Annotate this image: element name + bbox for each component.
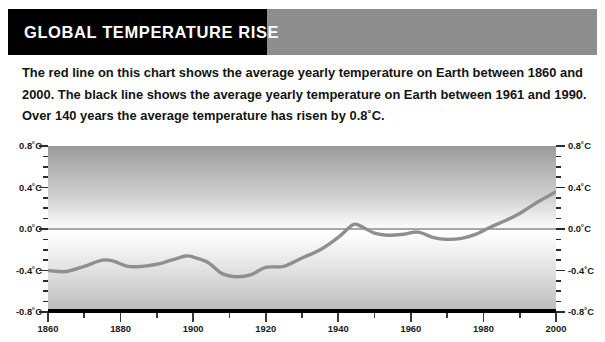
x-tick-minor [156, 313, 158, 318]
x-tick-major [47, 313, 49, 322]
x-tick-minor [229, 313, 231, 318]
page-title: GLOBAL TEMPERATURE RISE [24, 23, 279, 42]
y-axis-label-right: 0.4˚C [568, 183, 591, 193]
x-tick-major [265, 313, 267, 322]
y-axis-labels: 0.8˚C0.8˚C0.4˚C0.4˚C0.0˚C0.0˚C-0.4˚C-0.4… [8, 140, 597, 334]
x-tick-major [192, 313, 194, 322]
y-axis-label-right: -0.8˚C [568, 307, 594, 317]
x-axis-label: 1980 [473, 323, 494, 334]
x-axis-label: 1880 [110, 323, 131, 334]
intro-line-2: 2000. The black line shows the average y… [22, 84, 587, 106]
y-axis-label-right: 0.8˚C [568, 141, 591, 151]
x-tick-minor [301, 313, 303, 318]
intro-paragraph: The red line on this chart shows the ave… [22, 62, 587, 127]
y-axis-label-left: 0.4˚C [19, 183, 42, 193]
x-tick-major [120, 313, 122, 322]
x-tick-minor [519, 313, 521, 318]
x-tick-minor [446, 313, 448, 318]
x-tick-major [410, 313, 412, 322]
x-axis-label: 1900 [183, 323, 204, 334]
x-axis-label: 1960 [400, 323, 421, 334]
y-axis-label-left: 0.0˚C [19, 224, 42, 234]
x-tick-minor [83, 313, 85, 318]
y-axis-label-left: 0.8˚C [19, 141, 42, 151]
y-axis-label-left: -0.8˚C [16, 307, 42, 317]
x-axis-label: 1920 [255, 323, 276, 334]
x-tick-major [483, 313, 485, 322]
intro-line-1: The red line on this chart shows the ave… [22, 62, 587, 84]
y-axis-label-left: -0.4˚C [16, 266, 42, 276]
x-axis-label: 1940 [328, 323, 349, 334]
temperature-chart: 0.8˚C0.8˚C0.4˚C0.4˚C0.0˚C0.0˚C-0.4˚C-0.4… [8, 140, 597, 334]
x-tick-major [337, 313, 339, 322]
y-axis-label-right: -0.4˚C [568, 266, 594, 276]
title-box: GLOBAL TEMPERATURE RISE [8, 9, 267, 55]
x-tick-major [555, 313, 557, 322]
poster-root: GLOBAL TEMPERATURE RISE The red line on … [0, 0, 605, 342]
x-tick-minor [374, 313, 376, 318]
intro-line-3: Over 140 years the average temperature h… [22, 105, 587, 127]
x-axis-label: 1860 [38, 323, 59, 334]
x-axis-label: 2000 [546, 323, 567, 334]
y-axis-label-right: 0.0˚C [568, 224, 591, 234]
